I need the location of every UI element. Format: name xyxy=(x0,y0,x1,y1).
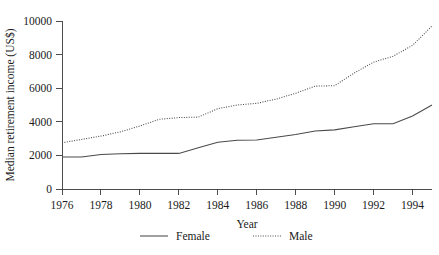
legend-label-male: Male xyxy=(289,230,313,242)
y-tick-label: 10000 xyxy=(23,15,52,27)
legend-label-female: Female xyxy=(176,230,210,242)
retirement-income-chart-figure: 0200040006000800010000 Median retirement… xyxy=(0,0,439,255)
x-tick-label: 1976 xyxy=(51,199,74,211)
x-tick-label: 1992 xyxy=(362,199,385,211)
y-tick-label: 4000 xyxy=(29,116,52,128)
series-line-male xyxy=(62,26,432,143)
x-tick-label: 1994 xyxy=(401,199,424,211)
y-axis: 0200040006000800010000 Median retirement… xyxy=(4,15,62,195)
y-axis-title: Median retirement income (US$) xyxy=(4,28,17,181)
x-tick-label: 1986 xyxy=(245,199,268,211)
data-series-group xyxy=(62,26,432,157)
y-tick-label: 8000 xyxy=(29,49,52,61)
x-tick-label: 1990 xyxy=(323,199,346,211)
y-tick-label: 2000 xyxy=(29,149,52,161)
chart-legend: FemaleMale xyxy=(140,230,313,242)
series-line-female xyxy=(62,105,432,157)
x-tick-label: 1982 xyxy=(167,199,190,211)
x-tick-label: 1984 xyxy=(206,199,229,211)
x-axis-title: Year xyxy=(236,218,257,230)
chart-canvas: 0200040006000800010000 Median retirement… xyxy=(0,0,439,255)
x-tick-label: 1980 xyxy=(128,199,151,211)
y-tick-group: 0200040006000800010000 xyxy=(23,15,62,195)
y-tick-label: 6000 xyxy=(29,82,52,94)
x-tick-group: 1976197819801982198419861988199019921994 xyxy=(51,189,425,211)
x-tick-label: 1978 xyxy=(89,199,112,211)
y-tick-label: 0 xyxy=(46,183,52,195)
x-tick-label: 1988 xyxy=(284,199,307,211)
x-axis: 1976197819801982198419861988199019921994… xyxy=(51,189,433,230)
